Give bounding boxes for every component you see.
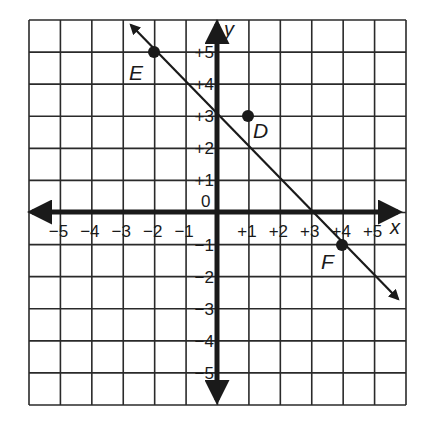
y-tick-label: +4 [195,75,214,94]
point-f-dot [336,239,348,251]
x-tick-label: −2 [143,222,162,241]
x-tick-label: −4 [80,222,99,241]
x-tick-label: +1 [237,222,256,241]
x-tick-label: +5 [363,222,382,241]
origin-label: 0 [201,192,210,211]
x-tick-label: −1 [174,222,193,241]
y-tick-label: +1 [195,171,214,190]
y-tick-label: −4 [195,332,214,351]
y-tick-label: −1 [195,236,214,255]
y-tick-label: +3 [195,107,214,126]
x-tick-label: +3 [300,222,319,241]
y-tick-label: −3 [195,300,214,319]
y-tick-label: −2 [195,268,214,287]
point-d-label: D [253,119,268,142]
line-e-f [131,25,398,299]
point-e-dot [148,46,160,58]
coordinate-plane: x y 0 −5−4−3−2−1+1+2+3+4+5 +5+4+3+2+1−1−… [0,0,422,422]
point-e-label: E [129,61,144,84]
x-tick-label: −5 [49,222,68,241]
point-d: D [242,110,268,142]
x-tick-label: +2 [269,222,288,241]
y-tick-label: +2 [195,139,214,158]
y-tick-label: +5 [195,43,214,62]
x-tick-label: −3 [112,222,131,241]
y-tick-label: −5 [195,364,214,383]
x-tick-label: +4 [331,222,350,241]
point-f-label: F [321,250,335,273]
y-axis-label: y [222,18,235,40]
x-axis-label: x [389,216,401,238]
